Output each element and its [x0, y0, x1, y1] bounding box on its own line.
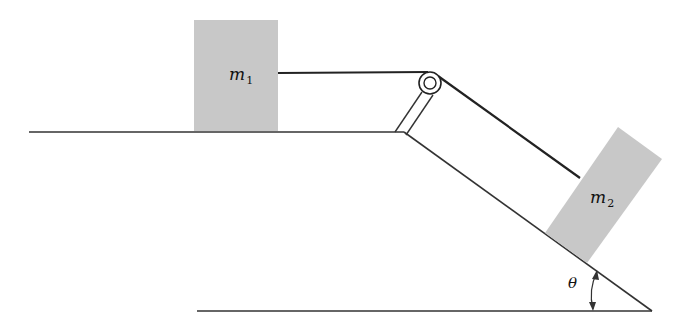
- angle-theta-indicator: θ: [568, 270, 599, 311]
- pulley-support: [395, 92, 433, 135]
- block-m1: m1: [194, 20, 278, 131]
- diagram-canvas: m1 m2 θ: [0, 0, 687, 332]
- block-m2: m2: [545, 127, 662, 263]
- pulley-icon: [419, 72, 441, 94]
- angle-theta-label: θ: [568, 274, 577, 292]
